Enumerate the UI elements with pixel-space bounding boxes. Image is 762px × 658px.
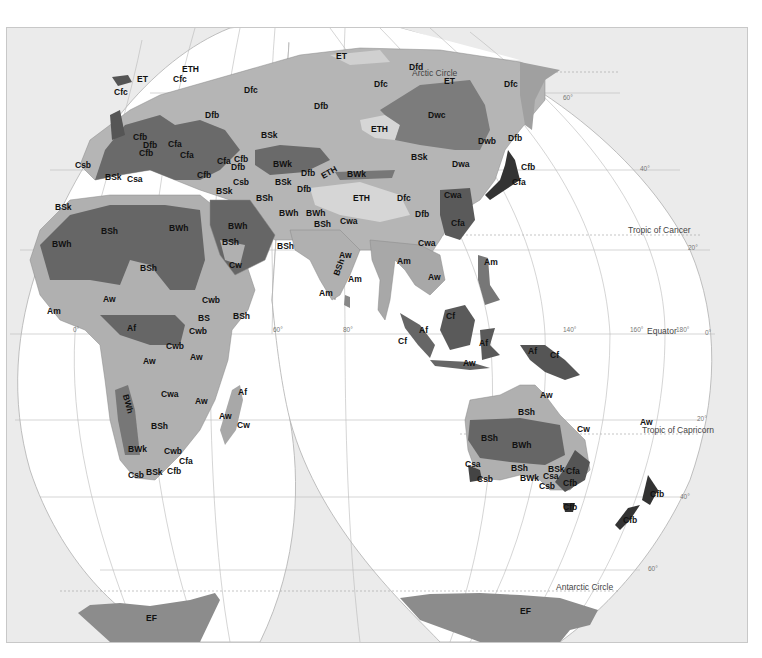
climate-label: BSk: [261, 130, 278, 140]
climate-label: Dwa: [452, 159, 470, 169]
climate-label: Aw: [190, 352, 203, 362]
climate-label: BS: [198, 313, 210, 323]
lon-label-180: 180°: [676, 326, 690, 333]
climate-label: Cfb: [521, 162, 535, 172]
climate-label: Cwb: [202, 295, 220, 305]
climate-label: Af: [238, 387, 247, 397]
climate-label: ETH: [353, 193, 370, 203]
climate-label: Dfc: [244, 85, 258, 95]
climate-label: BSh: [151, 421, 168, 431]
climate-label: BWh: [279, 208, 298, 218]
climate-label: Csa: [127, 174, 143, 184]
antarctic-circle-label: Antarctic Circle: [556, 582, 613, 592]
climate-label: Cfb: [139, 148, 153, 158]
iceland-island: [112, 75, 132, 86]
climate-label: Aw: [195, 396, 208, 406]
climate-label: BWh: [228, 221, 247, 231]
climate-label: Cwa: [340, 216, 358, 226]
climate-label: Aw: [143, 356, 156, 366]
climate-label: Am: [319, 288, 333, 298]
climate-label: Cf: [550, 350, 559, 360]
climate-label: Cfa: [179, 456, 193, 466]
climate-label: Aw: [463, 358, 476, 368]
climate-label: Am: [47, 306, 61, 316]
climate-label: Am: [484, 257, 498, 267]
climate-label: Dfb: [231, 162, 245, 172]
climate-label: BWk: [520, 473, 539, 483]
climate-label: Cwb: [164, 446, 182, 456]
climate-label: BSh: [481, 433, 498, 443]
climate-label: Aw: [219, 411, 232, 421]
climate-label: BSk: [275, 177, 292, 187]
climate-label: BSh: [101, 226, 118, 236]
climate-label: Dfd: [409, 62, 423, 72]
climate-label: Aw: [103, 294, 116, 304]
climate-label: BWk: [273, 159, 292, 169]
climate-label: Dfb: [297, 184, 311, 194]
climate-label: BSk: [411, 152, 428, 162]
climate-label: Csa: [465, 459, 481, 469]
tropic-of-capricorn-label: Tropic of Capricorn: [642, 425, 714, 435]
climate-label: BWh: [512, 440, 531, 450]
climate-label: Csb: [539, 481, 555, 491]
climate-label: ET: [444, 76, 456, 86]
lon-label-60: 60°: [273, 326, 283, 333]
lat-label-0: 0°: [705, 329, 712, 336]
climate-label: Cfb: [623, 515, 637, 525]
climate-label: BSh: [511, 463, 528, 473]
lon-label-80: 80°: [343, 326, 353, 333]
climate-label-antarctica-east: EF: [520, 606, 531, 616]
climate-label: Cfb: [563, 478, 577, 488]
climate-label: Cwa: [444, 190, 462, 200]
climate-label: Dfc: [397, 193, 411, 203]
climate-label: Cw: [577, 424, 590, 434]
climate-label: BSk: [105, 172, 122, 182]
climate-label: Csb: [75, 160, 91, 170]
climate-label: Cw: [229, 260, 242, 270]
climate-label: Dfb: [314, 101, 328, 111]
climate-label: Af: [479, 338, 488, 348]
climate-label: ETH: [182, 64, 199, 74]
climate-label: Af: [127, 323, 136, 333]
climate-label: Csa: [543, 471, 559, 481]
tropic-of-cancer-label: Tropic of Cancer: [628, 225, 691, 235]
climate-label: BSh: [518, 407, 535, 417]
climate-label-antarctica-west: EF: [146, 613, 157, 623]
climate-label: Cfa: [180, 150, 194, 160]
climate-label: BSk: [146, 467, 163, 477]
climate-label: Cfa: [451, 218, 465, 228]
climate-label: BSh: [256, 193, 273, 203]
climate-label: BSh: [222, 237, 239, 247]
climate-label: Dwc: [428, 110, 446, 120]
climate-label: Cwb: [166, 341, 184, 351]
climate-label: Cf: [398, 336, 407, 346]
climate-label: Am: [397, 256, 411, 266]
climate-label: BSk: [55, 202, 72, 212]
climate-label: Cfa: [168, 139, 182, 149]
climate-label: Dfb: [508, 133, 522, 143]
climate-label: BSh: [233, 311, 250, 321]
lat-label-60n: 60°: [563, 94, 573, 101]
lat-label-20s: 20°: [697, 415, 707, 422]
climate-label: Dfc: [504, 79, 518, 89]
climate-label: Af: [419, 325, 428, 335]
climate-label: Cfc: [114, 87, 128, 97]
lat-label-40n: 40°: [640, 165, 650, 172]
climate-label: BWh: [169, 223, 188, 233]
climate-label: Am: [348, 274, 362, 284]
climate-label: BWk: [347, 169, 366, 179]
climate-label: BSh: [314, 219, 331, 229]
equator-label: Equator: [647, 326, 677, 336]
climate-label: BSh: [277, 241, 294, 251]
lon-label-140: 140°: [563, 326, 577, 333]
lat-label-60s: 60°: [648, 565, 658, 572]
climate-label: Cwb: [189, 326, 207, 336]
climate-label: ET: [336, 51, 348, 61]
lat-label-40s: 40°: [680, 493, 690, 500]
lon-label-0: 0°: [73, 326, 80, 333]
climate-map: Arctic Circle Tropic of Cancer Equator T…: [0, 0, 762, 658]
climate-label: Dfb: [301, 168, 315, 178]
climate-label: Cfb: [167, 466, 181, 476]
climate-label: Aw: [339, 250, 352, 260]
climate-label: BSk: [216, 186, 233, 196]
